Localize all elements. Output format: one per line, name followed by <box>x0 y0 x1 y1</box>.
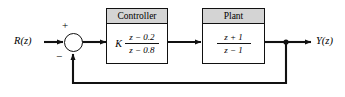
plant-denominator: z − 1 <box>222 44 245 55</box>
controller-gain-label: K <box>115 38 122 49</box>
summing-junction-minus-sign: − <box>56 51 62 62</box>
controller-fraction: z − 0.2 z − 0.8 <box>125 33 159 55</box>
signal-wires <box>0 0 345 97</box>
plant-transfer-function: z + 1 z − 1 <box>203 24 264 63</box>
controller-block-title: Controller <box>107 9 167 24</box>
controller-denominator: z − 0.8 <box>127 44 156 55</box>
plant-block: Plant z + 1 z − 1 <box>202 8 265 64</box>
plant-numerator: z + 1 <box>222 33 245 44</box>
controller-numerator: z − 0.2 <box>127 33 156 44</box>
system-output-label: Y(z) <box>316 35 333 46</box>
block-diagram: + − R(z) Y(z) Controller K z − 0.2 z − 0… <box>0 0 345 97</box>
controller-transfer-function: K z − 0.2 z − 0.8 <box>107 24 167 63</box>
summing-junction <box>64 33 83 52</box>
reference-input-label: R(z) <box>14 35 32 46</box>
plant-fraction: z + 1 z − 1 <box>217 33 251 55</box>
summing-junction-plus-sign: + <box>62 20 68 31</box>
controller-block: Controller K z − 0.2 z − 0.8 <box>106 8 168 64</box>
plant-block-title: Plant <box>203 9 264 24</box>
